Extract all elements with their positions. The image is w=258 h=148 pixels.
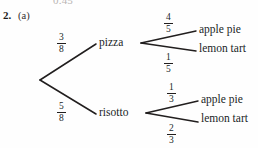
- fraction-denominator: 3: [167, 136, 176, 146]
- fraction-denominator: 8: [57, 114, 66, 124]
- fraction-denominator: 3: [167, 95, 176, 105]
- probability-risotto-lemon-tart: 2 3: [167, 124, 176, 145]
- branch-risotto-lemon-tart: [146, 113, 198, 122]
- branch-root-risotto: [40, 80, 96, 114]
- fraction-numerator: 2: [167, 124, 176, 134]
- branch-pizza-lemon-tart: [141, 43, 196, 51]
- node-label-risotto: risotto: [99, 107, 128, 119]
- fraction-numerator: 3: [57, 33, 66, 43]
- fraction-numerator: 4: [164, 13, 173, 23]
- probability-pizza-lemon-tart: 1 5: [164, 53, 173, 74]
- probability-pizza-apple-pie: 4 5: [164, 13, 173, 34]
- leaf-label-risotto-apple-pie: apple pie: [201, 94, 243, 106]
- fraction-denominator: 8: [57, 45, 66, 55]
- leaf-label-pizza-lemon-tart: lemon tart: [199, 43, 246, 55]
- leaf-label-risotto-lemon-tart: lemon tart: [201, 113, 248, 125]
- branch-root-pizza: [40, 44, 96, 80]
- leaf-label-pizza-apple-pie: apple pie: [199, 24, 241, 36]
- probability-pizza: 3 8: [57, 33, 66, 54]
- tree-diagram-figure: 0.45 2. (a) pizza risotto apple pie lemo…: [0, 0, 258, 148]
- fraction-denominator: 5: [164, 25, 173, 35]
- fraction-numerator: 5: [57, 102, 66, 112]
- probability-risotto: 5 8: [57, 102, 66, 123]
- fraction-numerator: 1: [167, 83, 176, 93]
- node-label-pizza: pizza: [99, 37, 123, 49]
- fraction-denominator: 5: [164, 65, 173, 75]
- fraction-numerator: 1: [164, 53, 173, 63]
- probability-risotto-apple-pie: 1 3: [167, 83, 176, 104]
